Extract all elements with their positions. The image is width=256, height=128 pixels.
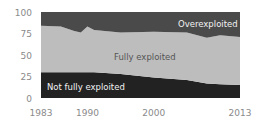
y-tick-label: 50 xyxy=(21,51,33,61)
y-tick-label: 0 xyxy=(26,94,32,104)
x-tick-label: 1983 xyxy=(30,108,53,118)
stacked-area-chart: 0255075100 1983199020002013 Overexploite… xyxy=(0,0,256,128)
x-axis-ticks: 1983199020002013 xyxy=(30,108,252,118)
x-tick-label: 2013 xyxy=(229,108,252,118)
label-overexploited: Overexploited xyxy=(178,19,238,29)
y-axis-ticks: 0255075100 xyxy=(15,8,32,104)
x-tick-label: 1990 xyxy=(76,108,99,118)
x-tick-label: 2000 xyxy=(142,108,165,118)
label-not-fully-exploited: Not fully exploited xyxy=(47,82,125,92)
y-tick-label: 75 xyxy=(21,29,32,39)
y-tick-label: 100 xyxy=(15,8,32,18)
y-tick-label: 25 xyxy=(21,72,32,82)
label-fully-exploited: Fully exploited xyxy=(114,52,176,62)
